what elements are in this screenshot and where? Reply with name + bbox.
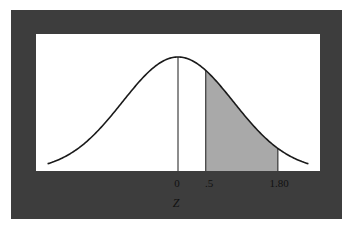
shaded-area <box>206 70 278 171</box>
tick-label-0.5: .5 <box>205 177 213 189</box>
tick-label-0: 0 <box>174 177 180 189</box>
axis-title-z: Z <box>173 196 180 211</box>
tick-label-1.80: 1.80 <box>269 177 288 189</box>
